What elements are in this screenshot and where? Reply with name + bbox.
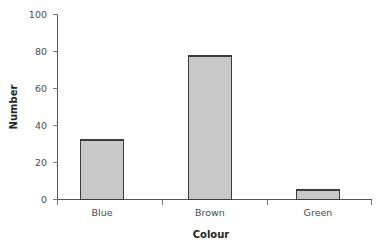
y-tick-label-100: 100 (29, 9, 47, 20)
x-category-label-blue: Blue (91, 207, 112, 218)
x-category-label-brown: Brown (195, 207, 225, 218)
y-tick-label-40: 40 (35, 120, 47, 131)
y-axis-title: Number (8, 85, 19, 130)
y-tick-label-20: 20 (35, 157, 47, 168)
x-category-label-green: Green (304, 207, 333, 218)
bar-blue (81, 140, 124, 200)
bar-chart-figure: 0 20 40 60 80 100 Number Blue Brown Gree… (0, 0, 384, 247)
bar-green (297, 190, 340, 200)
y-tick-label-0: 0 (41, 194, 47, 205)
y-tick-label-60: 60 (35, 83, 47, 94)
chart-canvas: 0 20 40 60 80 100 Number Blue Brown Gree… (0, 0, 384, 247)
y-tick-label-80: 80 (35, 46, 47, 57)
bar-brown (189, 56, 232, 200)
x-axis-title: Colour (193, 229, 230, 240)
